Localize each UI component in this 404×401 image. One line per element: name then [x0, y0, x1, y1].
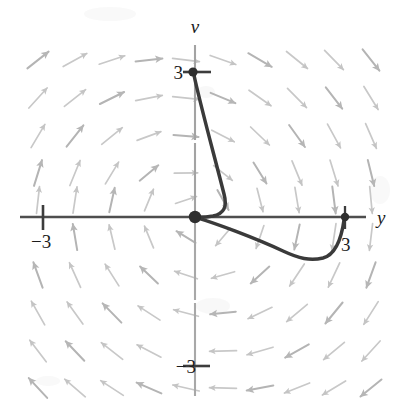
field-arrow [176, 197, 197, 204]
field-arrow [33, 262, 42, 287]
field-arrow [137, 383, 162, 394]
v-axis-label: v [191, 16, 200, 37]
field-arrow [211, 93, 236, 103]
field-arrow [101, 381, 124, 396]
field-arrow [294, 224, 299, 249]
field-arrow [109, 188, 114, 212]
field-arrow [137, 345, 161, 357]
field-arrow [326, 87, 342, 108]
field-arrow [29, 88, 47, 108]
tick-label-y-pos3: 3 [341, 234, 351, 255]
y-axis-label: y [375, 207, 386, 228]
field-arrow [66, 341, 85, 361]
end-point [341, 213, 349, 221]
field-arrow [99, 56, 125, 64]
field-arrow [368, 160, 374, 186]
field-arrow [65, 379, 86, 397]
field-arrow [177, 231, 196, 243]
field-arrow [257, 188, 263, 211]
field-arrow [284, 383, 309, 393]
field-arrow [364, 302, 378, 325]
field-arrow [248, 307, 272, 318]
field-arrow [362, 341, 380, 361]
tick-label-y-neg3: −3 [31, 231, 51, 252]
field-arrow [332, 187, 335, 214]
field-arrow [105, 162, 118, 184]
field-arrow [328, 124, 341, 148]
field-arrow [136, 95, 163, 100]
direction-field-figure: v y 3 −3 −3 3 [0, 0, 404, 401]
field-arrow [248, 53, 271, 67]
field-arrow [102, 128, 123, 145]
field-arrow [136, 59, 163, 62]
field-arrow [328, 263, 339, 287]
field-arrow [366, 124, 377, 149]
field-arrow [247, 347, 273, 355]
field-arrow [103, 303, 122, 322]
field-arrow [363, 49, 380, 70]
field-arrow [140, 267, 158, 284]
field-arrow [101, 343, 122, 360]
field-arrow [145, 226, 154, 248]
field-arrow [63, 53, 87, 66]
field-arrow [73, 224, 77, 250]
field-arrow [290, 264, 305, 286]
field-arrow [30, 340, 46, 362]
tick-label-v-pos3: 3 [174, 62, 184, 83]
field-arrow [249, 90, 271, 106]
field-arrow [34, 160, 42, 186]
field-arrow [366, 262, 375, 287]
field-arrow [31, 124, 45, 147]
field-arrow [216, 228, 231, 245]
field-arrow [292, 161, 302, 185]
field-arrow [70, 161, 80, 186]
field-arrow [67, 125, 84, 146]
field-arrow [31, 301, 44, 325]
field-arrow [325, 50, 344, 69]
origin-point [189, 211, 201, 223]
field-arrow [369, 224, 372, 251]
field-arrow [37, 187, 40, 214]
field-arrow [288, 88, 307, 107]
field-arrow [256, 226, 264, 249]
field-arrow [64, 90, 85, 107]
field-arrow [140, 165, 159, 180]
start-point [188, 67, 197, 76]
solution-curve-layer [194, 73, 345, 259]
field-arrow [285, 344, 309, 357]
field-arrow [325, 303, 342, 324]
field-arrow [210, 56, 236, 65]
field-arrow [247, 386, 274, 391]
field-arrow [364, 87, 378, 110]
field-arrow [109, 225, 115, 249]
field-arrow [100, 92, 124, 104]
field-arrow [251, 267, 270, 284]
field-arrow [295, 187, 299, 212]
field-arrow [289, 125, 305, 147]
field-arrow [210, 351, 237, 352]
solution-curve-lower [196, 217, 345, 259]
field-arrow [212, 130, 234, 142]
field-arrow [361, 380, 382, 397]
field-arrow [27, 52, 48, 69]
field-arrow [69, 263, 80, 288]
field-arrow [251, 127, 270, 145]
phase-plane-svg: v y 3 −3 −3 3 [0, 0, 404, 401]
field-arrow [287, 52, 308, 69]
field-arrow [330, 160, 338, 186]
field-arrow [322, 381, 345, 395]
field-arrow [138, 306, 160, 320]
field-arrow [73, 187, 77, 213]
field-arrow [137, 132, 161, 141]
field-arrow [287, 304, 308, 321]
field-arrow [324, 342, 345, 359]
tick-label-v-neg3: −3 [176, 356, 196, 377]
field-arrow [67, 302, 83, 324]
field-arrow [105, 264, 119, 286]
field-arrow [145, 189, 154, 211]
direction-field-layer [27, 49, 381, 398]
field-arrow [210, 388, 237, 389]
field-arrow [254, 163, 267, 184]
field-arrow [211, 272, 234, 279]
